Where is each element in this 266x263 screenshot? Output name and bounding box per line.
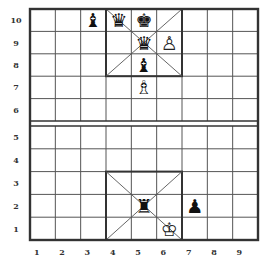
file-label: 8: [211, 247, 217, 257]
file-label: 4: [110, 247, 116, 257]
rank-label: 3: [13, 178, 19, 188]
file-label: 6: [161, 247, 167, 257]
rank-label: 1: [13, 224, 19, 234]
rank-label: 2: [13, 201, 19, 211]
black-bishop-icon: ♝: [135, 54, 152, 76]
file-label: 5: [135, 247, 141, 257]
black-king-icon: ♚: [135, 9, 152, 31]
board-diagram: 10987654321123456789 ♝♛♚♛♙♝♗♜♟♔: [0, 0, 266, 263]
black-pawn-icon: ♟: [186, 195, 203, 217]
rank-label: 7: [13, 82, 19, 92]
white-king-icon: ♔: [161, 218, 178, 240]
rank-label: 5: [13, 132, 19, 142]
rank-label: 10: [10, 15, 22, 25]
black-rook-icon: ♜: [135, 195, 152, 217]
white-bishop-icon: ♗: [135, 76, 152, 98]
black-queen-icon: ♛: [110, 9, 127, 31]
white-pawn-icon: ♙: [161, 32, 178, 54]
file-label: 7: [186, 247, 192, 257]
black-queen-icon: ♛: [135, 32, 152, 54]
rank-label: 6: [13, 105, 19, 115]
black-bishop-icon: ♝: [85, 9, 102, 31]
file-label: 3: [85, 247, 91, 257]
file-label: 2: [59, 247, 65, 257]
file-label: 1: [34, 247, 40, 257]
rank-label: 4: [13, 155, 19, 165]
file-label: 9: [237, 247, 243, 257]
rank-label: 8: [13, 60, 19, 70]
rank-label: 9: [13, 38, 19, 48]
